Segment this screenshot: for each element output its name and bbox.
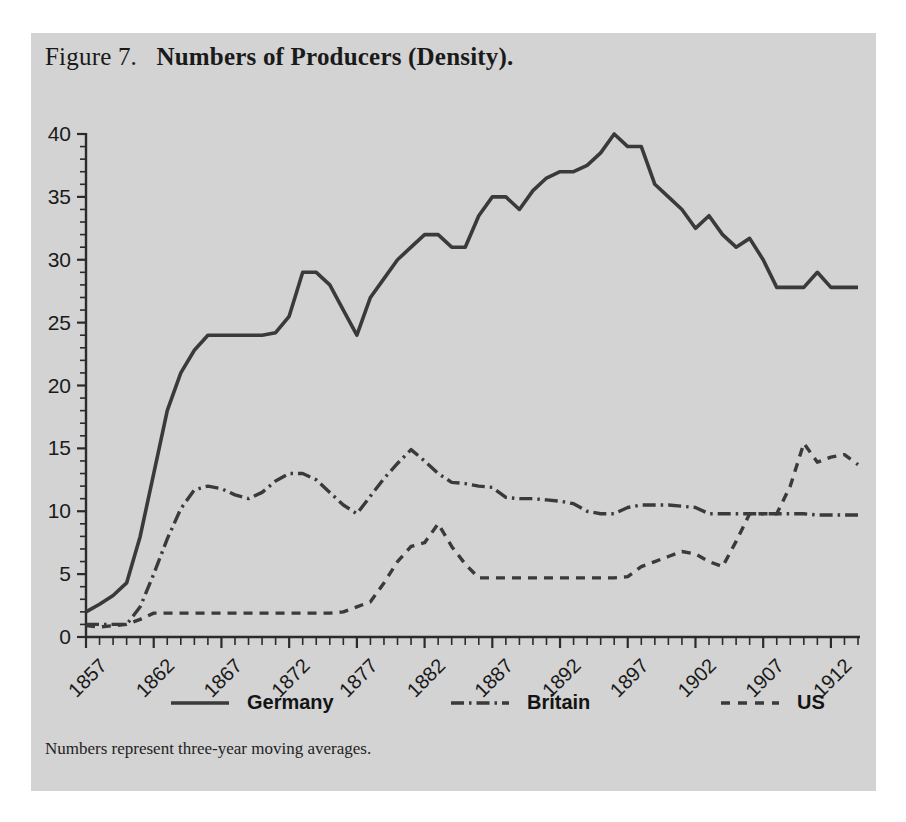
legend-label-us: US	[797, 691, 825, 713]
y-axis-tick-label: 40	[48, 122, 71, 145]
x-axis-tick-label: 1882	[402, 654, 449, 701]
figure-panel: Figure 7. Numbers of Producers (Density)…	[31, 33, 876, 791]
y-axis-tick-label: 5	[59, 562, 71, 585]
chart-plot-area: 0510152025303540 18571862186718721877188…	[31, 33, 876, 791]
y-axis-tick-label: 15	[48, 436, 71, 459]
x-axis-tick-label-group: 1877	[335, 654, 382, 701]
y-axis-tick-label: 10	[48, 499, 71, 522]
x-axis-tick-label-group: 1857	[64, 654, 111, 701]
x-axis-tick-label-group: 1907	[741, 654, 788, 701]
x-axis-tick-label: 1862	[132, 654, 179, 701]
y-axis: 0510152025303540	[48, 122, 86, 648]
x-axis-tick-label-group: 1902	[673, 654, 720, 701]
x-axis-tick-label-group: 1882	[402, 654, 449, 701]
line-chart-svg: 0510152025303540 18571862186718721877188…	[31, 33, 876, 791]
y-axis-tick-label: 25	[48, 311, 71, 334]
y-axis-tick-label: 20	[48, 374, 71, 397]
x-axis-tick-label: 1887	[470, 654, 517, 701]
x-axis-tick-label: 1902	[673, 654, 720, 701]
x-axis-tick-label: 1857	[64, 654, 111, 701]
x-axis-tick-label-group: 1862	[132, 654, 179, 701]
x-axis-tick-label-group: 1887	[470, 654, 517, 701]
y-axis-tick-label: 35	[48, 185, 71, 208]
x-axis-tick-label: 1907	[741, 654, 788, 701]
chart-series-group	[86, 134, 858, 627]
x-axis-tick-label: 1867	[199, 654, 246, 701]
figure-note: Numbers represent three-year moving aver…	[45, 739, 371, 759]
x-axis-tick-label: 1877	[335, 654, 382, 701]
series-line-britain	[86, 450, 858, 625]
x-axis-tick-label-group: 1867	[199, 654, 246, 701]
x-axis-tick-label: 1897	[606, 654, 653, 701]
legend-label-germany: Germany	[247, 691, 335, 713]
x-axis: 1857186218671872187718821887189218971902…	[64, 637, 860, 701]
y-axis-tick-label: 0	[59, 625, 71, 648]
legend-label-britain: Britain	[527, 691, 590, 713]
series-line-germany	[86, 134, 858, 612]
chart-legend: GermanyBritainUS	[171, 691, 825, 713]
x-axis-tick-label-group: 1897	[606, 654, 653, 701]
y-axis-tick-label: 30	[48, 248, 71, 271]
series-line-us	[86, 443, 858, 627]
